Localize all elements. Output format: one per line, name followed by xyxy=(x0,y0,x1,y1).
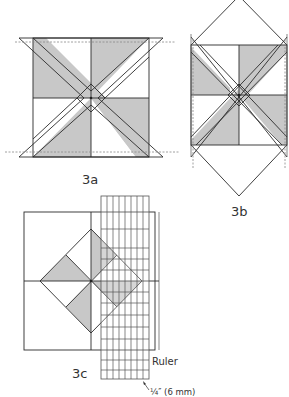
shade-3a-tr xyxy=(91,38,149,98)
label-3c: 3c xyxy=(72,366,87,381)
ruler xyxy=(101,196,149,379)
shade-3b-br xyxy=(239,95,287,145)
quilt-diagram: 3a 3b xyxy=(0,0,289,397)
label-3b: 3b xyxy=(231,204,248,219)
seam-allowance-label: ¼″ (6 mm) xyxy=(150,387,195,397)
arrow-head-icon xyxy=(143,381,146,385)
center-point-3a xyxy=(90,97,93,100)
shade-3a-bl xyxy=(33,98,91,157)
shade-3c-left xyxy=(40,255,91,281)
figure-3b: 3b xyxy=(191,0,287,219)
label-3a: 3a xyxy=(82,172,98,187)
center-point-3b xyxy=(238,94,241,97)
center-point-3c xyxy=(90,280,93,283)
figure-3c: Ruler ¼″ (6 mm) 3c xyxy=(24,196,195,397)
figure-3a: 3a xyxy=(5,38,180,187)
shade-3c-bottom xyxy=(66,281,91,333)
ruler-label: Ruler xyxy=(152,356,179,367)
